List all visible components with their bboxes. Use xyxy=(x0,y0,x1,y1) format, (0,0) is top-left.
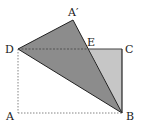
label-B: B xyxy=(126,110,134,123)
label-A-prime: A′ xyxy=(67,6,79,19)
label-C: C xyxy=(125,43,133,56)
label-E: E xyxy=(87,36,95,49)
label-A: A xyxy=(5,110,15,123)
fold-diagram: A′ D E C A B xyxy=(0,0,143,124)
label-D: D xyxy=(5,43,14,56)
